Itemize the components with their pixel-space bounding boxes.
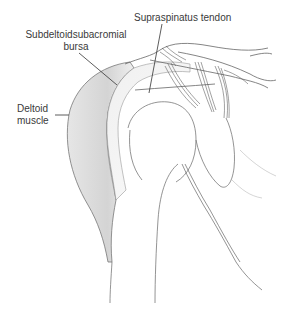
bursa-shape <box>107 62 190 200</box>
label-subdeltoid-bursa-line2: bursa <box>18 41 134 53</box>
label-subdeltoid-bursa-line1: Subdeltoidsubacromial <box>18 29 134 41</box>
humeral-head <box>128 102 235 187</box>
label-subdeltoid-bursa: Subdeltoidsubacromial bursa <box>18 29 134 53</box>
tendon-fibres <box>160 46 248 118</box>
leader-supraspinatus <box>149 24 162 93</box>
scapula-outline <box>232 150 276 198</box>
label-deltoid-muscle: Deltoid muscle <box>17 103 49 127</box>
label-deltoid-line1: Deltoid <box>17 103 49 115</box>
humerus-shaft <box>110 164 262 303</box>
label-deltoid-line2: muscle <box>17 115 49 127</box>
shoulder-anatomy-diagram: Supraspinatus tendon Subdeltoidsubacromi… <box>0 0 281 314</box>
label-supraspinatus-tendon: Supraspinatus tendon <box>134 12 231 24</box>
